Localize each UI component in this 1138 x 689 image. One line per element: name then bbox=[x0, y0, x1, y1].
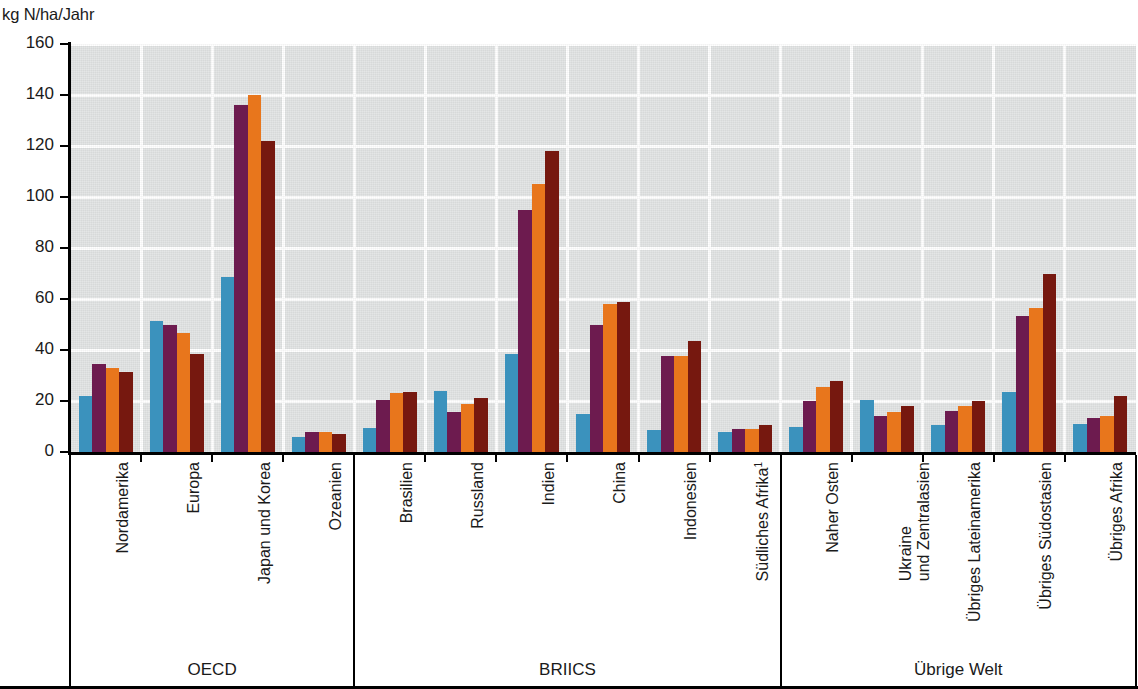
y-axis-tick bbox=[60, 298, 69, 300]
x-axis-tick bbox=[1064, 453, 1066, 462]
category-label: Ukraineund Zentralasien bbox=[897, 462, 933, 581]
bar bbox=[505, 354, 519, 452]
category-label-line1: Russland bbox=[469, 462, 486, 529]
bar bbox=[759, 425, 773, 452]
group-separator bbox=[780, 455, 782, 686]
bar bbox=[732, 429, 746, 452]
bar bbox=[106, 368, 120, 452]
category-label: Brasilien bbox=[398, 462, 416, 523]
bar bbox=[1114, 396, 1128, 452]
category-label-line1: Europa bbox=[185, 462, 202, 514]
bar bbox=[958, 406, 972, 452]
bar bbox=[688, 341, 702, 452]
y-axis-tick-label: 20 bbox=[35, 390, 54, 410]
category-label: Russland bbox=[469, 462, 487, 529]
bar bbox=[647, 430, 661, 452]
bar bbox=[1087, 418, 1101, 452]
y-axis-tick bbox=[60, 94, 69, 96]
bar bbox=[363, 428, 377, 452]
category-label: Übriges Südostasien bbox=[1037, 462, 1055, 610]
y-axis-tick bbox=[60, 451, 69, 453]
category-label-line1: China bbox=[611, 462, 628, 504]
x-axis-tick bbox=[993, 453, 995, 462]
bar bbox=[532, 184, 546, 452]
bar bbox=[718, 432, 732, 452]
category-label: Indonesien bbox=[682, 462, 700, 540]
bar bbox=[931, 425, 945, 452]
bar bbox=[887, 412, 901, 452]
category-label-line1: Indonesien bbox=[682, 462, 699, 540]
category-label-line1: Übriges Lateinamerika bbox=[966, 462, 983, 622]
bar bbox=[674, 356, 688, 452]
bar bbox=[1016, 316, 1030, 452]
category-label-line1: Südliches Afrika bbox=[754, 468, 771, 582]
category-label: Japan und Korea bbox=[256, 462, 274, 584]
bar bbox=[590, 325, 604, 453]
y-axis-tick-label: 100 bbox=[26, 186, 54, 206]
bar bbox=[1100, 416, 1114, 452]
bar bbox=[447, 412, 461, 452]
y-axis-tick-label: 60 bbox=[35, 288, 54, 308]
bar bbox=[234, 105, 248, 452]
bar bbox=[461, 404, 475, 452]
category-label-line1: Brasilien bbox=[398, 462, 415, 523]
x-axis-line bbox=[68, 452, 1136, 455]
bar bbox=[745, 429, 759, 452]
category-label-line1: Japan und Korea bbox=[256, 462, 273, 584]
bar bbox=[816, 387, 830, 452]
bar bbox=[474, 398, 488, 452]
y-axis-tick-label: 140 bbox=[26, 84, 54, 104]
bar bbox=[1029, 308, 1043, 452]
category-label-line1: Nordamerika bbox=[114, 462, 131, 554]
bars-layer bbox=[70, 44, 1136, 452]
y-axis-tick-label: 120 bbox=[26, 135, 54, 155]
x-axis-tick bbox=[566, 453, 568, 462]
x-axis-tick bbox=[638, 453, 640, 462]
bar bbox=[292, 437, 306, 452]
bar bbox=[576, 414, 590, 452]
category-label: China bbox=[611, 462, 629, 504]
y-axis-tick bbox=[60, 145, 69, 147]
category-label: Ozeanien bbox=[327, 462, 345, 531]
x-axis-tick bbox=[424, 453, 426, 462]
bar bbox=[830, 381, 844, 452]
group-separator bbox=[69, 455, 71, 686]
y-axis-tick-label: 0 bbox=[45, 441, 54, 461]
y-axis-tick bbox=[60, 400, 69, 402]
group-caption: Übrige Welt bbox=[914, 660, 1003, 680]
bar bbox=[261, 141, 275, 452]
bar bbox=[1073, 424, 1087, 452]
bar bbox=[661, 356, 675, 452]
chart-container: kg N/ha/Jahr 020406080100120140160 Norda… bbox=[0, 0, 1138, 689]
x-axis-tick bbox=[495, 453, 497, 462]
bar bbox=[518, 210, 532, 452]
category-label: Naher Osten bbox=[824, 462, 842, 553]
bar bbox=[874, 416, 888, 452]
bar bbox=[319, 432, 333, 452]
bar bbox=[945, 411, 959, 452]
category-label: Europa bbox=[185, 462, 203, 514]
y-axis-tick-label: 160 bbox=[26, 33, 54, 53]
bar bbox=[434, 391, 448, 452]
category-label: Übriges Afrika bbox=[1108, 462, 1126, 562]
bar bbox=[1043, 274, 1057, 453]
y-axis-tick bbox=[60, 247, 69, 249]
group-caption: OECD bbox=[188, 660, 237, 680]
bar bbox=[177, 333, 191, 452]
category-label-line1: Ukraine bbox=[897, 526, 914, 581]
bar bbox=[248, 95, 262, 452]
category-label-line1: Übriges Afrika bbox=[1108, 462, 1125, 562]
y-axis-tick bbox=[60, 43, 69, 45]
bar bbox=[163, 325, 177, 453]
bar bbox=[545, 151, 559, 452]
category-label-footnote: 1 bbox=[753, 462, 764, 468]
y-axis-tick-label: 80 bbox=[35, 237, 54, 257]
category-label-line1: Naher Osten bbox=[824, 462, 841, 553]
bar bbox=[803, 401, 817, 452]
bar bbox=[603, 304, 617, 452]
bar bbox=[150, 321, 164, 452]
x-axis-tick bbox=[140, 453, 142, 462]
category-label-line1: Indien bbox=[540, 462, 557, 506]
x-axis-tick bbox=[211, 453, 213, 462]
y-axis-tick bbox=[60, 349, 69, 351]
